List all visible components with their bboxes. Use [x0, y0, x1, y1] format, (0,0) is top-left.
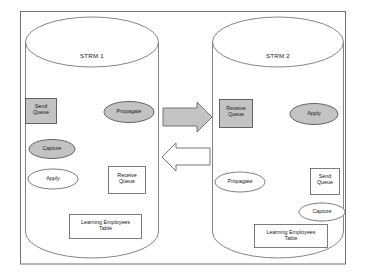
strm1-table-shape[interactable]	[70, 215, 142, 239]
strm2-propagate-shape[interactable]	[215, 172, 265, 192]
strm1-send-queue-shape[interactable]	[26, 99, 57, 124]
strm2-apply-shape[interactable]	[290, 104, 338, 125]
database-cylinder-strm2	[213, 17, 344, 258]
strm2-capture-shape[interactable]	[299, 203, 345, 221]
strm1-propagate-shape[interactable]	[104, 102, 154, 123]
strm2-send-queue-shape[interactable]	[311, 169, 340, 195]
strm1-receive-queue-shape[interactable]	[109, 167, 146, 194]
strm2-receive-queue-shape[interactable]	[220, 100, 253, 128]
diagram-svg	[0, 0, 365, 279]
strm1-apply-shape[interactable]	[28, 169, 78, 189]
diagram-canvas: STRM 1 Send Queue Propagate Capture Appl…	[0, 0, 365, 279]
strm2-table-shape[interactable]	[255, 225, 328, 248]
strm1-capture-shape[interactable]	[29, 140, 75, 159]
